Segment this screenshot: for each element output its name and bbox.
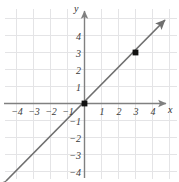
line-y-equals-x <box>6 20 165 181</box>
x-tick-label-neg3: −3 <box>27 107 41 117</box>
graph-figure: −4 −3 −2 −1 1 2 3 4 4 3 2 1 −1 −2 −3 −4 … <box>0 0 179 182</box>
y-tick-label-2: 2 <box>70 66 81 76</box>
y-tick-label-neg3: −3 <box>66 151 81 161</box>
y-tick-label-1: 1 <box>70 83 81 93</box>
y-tick-label-neg1: −1 <box>66 117 81 127</box>
point-3-3 <box>133 50 139 56</box>
x-tick-label-2: 2 <box>112 107 126 117</box>
x-axis-label: x <box>168 105 172 115</box>
function-line <box>6 20 165 181</box>
y-tick-label-3: 3 <box>70 49 81 59</box>
axis-lines <box>4 11 166 178</box>
y-tick-label-neg4: −4 <box>66 168 81 178</box>
y-tick-label-neg2: −2 <box>66 134 81 144</box>
data-points <box>82 50 139 107</box>
x-tick-label-1: 1 <box>95 107 109 117</box>
point-origin <box>82 101 88 107</box>
x-tick-label-4: 4 <box>146 107 160 117</box>
y-axis-label: y <box>74 4 78 14</box>
x-tick-label-neg4: −4 <box>10 107 24 117</box>
coordinate-plane <box>0 0 179 182</box>
y-tick-label-4: 4 <box>70 32 81 42</box>
x-tick-label-neg2: −2 <box>44 107 58 117</box>
x-tick-label-3: 3 <box>129 107 143 117</box>
